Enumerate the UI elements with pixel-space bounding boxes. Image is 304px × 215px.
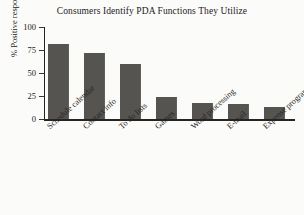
y-tick-label-75: 75 (0, 46, 36, 55)
y-tick-label-25: 25 (0, 92, 36, 101)
plot-area (44, 27, 295, 119)
y-tick-label-0: 0 (0, 115, 36, 124)
y-tick-label-50: 50 (0, 69, 36, 78)
chart-figure: Consumers Identify PDA Functions They Ut… (0, 0, 304, 215)
x-axis-labels: Schedule calendarContact infoTo do lists… (44, 123, 304, 213)
y-tick-label-100: 100 (0, 23, 36, 32)
chart-title: Consumers Identify PDA Functions They Ut… (0, 6, 304, 16)
bars-layer (44, 27, 295, 119)
